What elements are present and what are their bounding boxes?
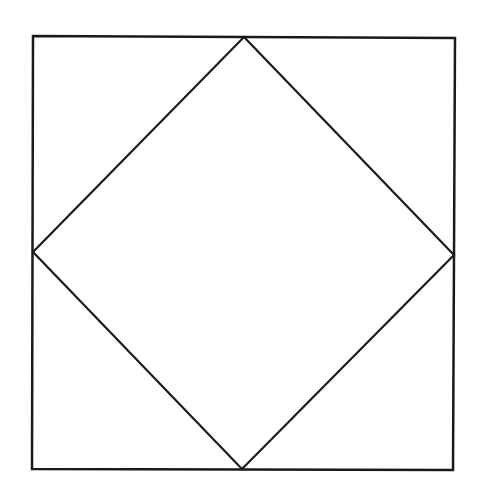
square-diamond-diagram [0,0,489,486]
outer-square [32,36,455,470]
inscribed-diamond [33,37,454,469]
